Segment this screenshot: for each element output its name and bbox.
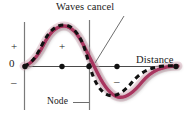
distance-axis-label: Distance	[136, 55, 174, 66]
node-label: Node	[47, 97, 68, 107]
y-axis-positive-tick-label: +	[11, 41, 17, 52]
y-axis-zero-tick-label: 0	[9, 58, 15, 69]
negative-region-sign-label: –	[114, 76, 120, 87]
wave-node-figure: Waves cancel Distance Node + 0 – + –	[0, 0, 184, 121]
y-axis-negative-tick-label: –	[11, 77, 17, 88]
waves-cancel-leader-line	[95, 16, 124, 63]
waves-cancel-label: Waves cancel	[56, 2, 114, 13]
positive-region-sign-label: +	[59, 41, 65, 52]
